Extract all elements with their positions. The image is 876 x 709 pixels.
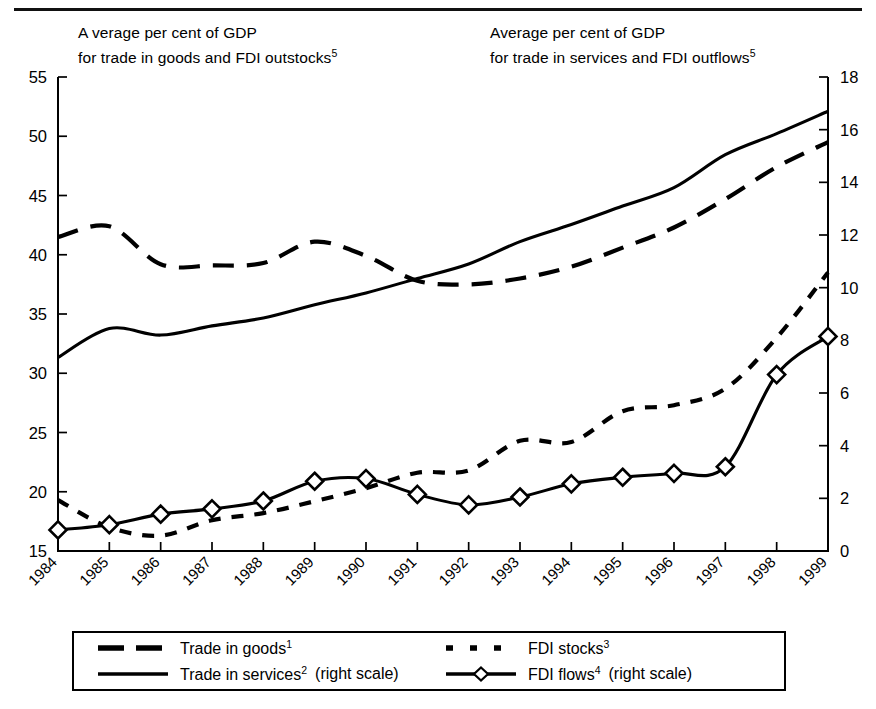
left-tick-label: 55 (29, 68, 47, 86)
right-tick-label: 18 (840, 68, 858, 86)
left-tick-label: 40 (29, 246, 47, 264)
x-tick-label: 1991 (384, 553, 420, 589)
series-marker (255, 492, 272, 509)
x-tick-label: 1993 (487, 553, 523, 589)
legend-swatch-stocks (444, 640, 518, 656)
right-tick-label: 8 (840, 331, 849, 349)
legend-item-services: Trade in services2 (right scale) (96, 664, 399, 684)
right-tick-label: 16 (840, 121, 858, 139)
series-path (58, 111, 828, 357)
legend-footnote-flows: 4 (595, 664, 601, 676)
series-marker (101, 516, 118, 533)
left-tick-label: 35 (29, 305, 47, 323)
x-tick-label: 1990 (333, 553, 369, 589)
series-marker (614, 469, 631, 486)
right-tick-label: 10 (840, 279, 858, 297)
series-path (58, 336, 828, 530)
x-tick-label: 1987 (179, 553, 215, 589)
legend-footnote-goods: 1 (286, 638, 292, 650)
series-fdi-flows (50, 328, 837, 539)
right-tick-label: 12 (840, 226, 858, 244)
x-tick-label: 1999 (795, 553, 831, 589)
x-tick-label: 1994 (538, 553, 574, 589)
x-tick-label: 1992 (435, 553, 471, 589)
x-tick-label: 1997 (692, 553, 728, 589)
series-trade-in-services (58, 111, 828, 357)
legend-scale-services: (right scale) (315, 665, 399, 683)
x-tick-label: 1989 (281, 553, 317, 589)
legend-item-flows: FDI flows4 (right scale) (444, 664, 692, 684)
legend-item-goods: Trade in goods1 (96, 638, 300, 658)
legend-label-goods: Trade in goods1 (180, 638, 292, 658)
x-tick-label: 1996 (641, 553, 677, 589)
x-tick-label: 1985 (76, 553, 112, 589)
series-marker (409, 486, 426, 503)
right-tick-label: 2 (840, 489, 849, 507)
left-tick-label: 25 (29, 424, 47, 442)
series-path (58, 273, 828, 536)
left-tick-label: 45 (29, 187, 47, 205)
x-tick-label: 1986 (127, 553, 163, 589)
series-marker (820, 328, 837, 345)
legend-swatch-flows (444, 666, 518, 682)
legend-swatch-services (96, 666, 170, 682)
legend-label-flows: FDI flows4 (528, 664, 601, 684)
legend-label-services-text: Trade in services (180, 666, 301, 683)
left-tick-label: 30 (29, 364, 47, 382)
legend-footnote-stocks: 3 (604, 638, 610, 650)
legend-footnote-services: 2 (301, 664, 307, 676)
chart-figure: A verage per cent of GDP for trade in go… (0, 0, 876, 709)
right-tick-label: 14 (840, 173, 858, 191)
legend-label-flows-text: FDI flows (528, 666, 595, 683)
series-marker (306, 473, 323, 490)
x-tick-label: 1995 (589, 553, 625, 589)
series-marker (666, 465, 683, 482)
x-tick-label: 1998 (743, 553, 779, 589)
legend-swatch-goods (96, 640, 170, 656)
axes-layer: 1520253035404550550246810121416181984198… (25, 68, 859, 589)
plot-area: 1520253035404550550246810121416181984198… (0, 0, 876, 709)
series-marker (204, 500, 221, 517)
series-marker (512, 489, 529, 506)
legend-label-goods-text: Trade in goods (180, 640, 286, 657)
series-marker (460, 496, 477, 513)
series-marker (563, 475, 580, 492)
legend-label-stocks: FDI stocks3 (528, 638, 609, 658)
series-marker (152, 506, 169, 523)
legend: Trade in goods1 Trade in services2 (righ… (72, 631, 786, 691)
legend-scale-flows: (right scale) (609, 665, 693, 683)
right-tick-label: 6 (840, 384, 849, 402)
right-tick-label: 4 (840, 437, 849, 455)
legend-label-services: Trade in services2 (180, 664, 307, 684)
right-tick-label: 0 (840, 542, 849, 560)
series-layer (50, 111, 837, 538)
series-marker (50, 521, 67, 538)
x-tick-label: 1988 (230, 553, 266, 589)
left-tick-label: 20 (29, 483, 47, 501)
left-tick-label: 50 (29, 127, 47, 145)
series-fdi-stocks (58, 273, 828, 536)
axis-frame (58, 77, 828, 551)
legend-item-stocks: FDI stocks3 (444, 638, 617, 658)
legend-label-stocks-text: FDI stocks (528, 640, 604, 657)
